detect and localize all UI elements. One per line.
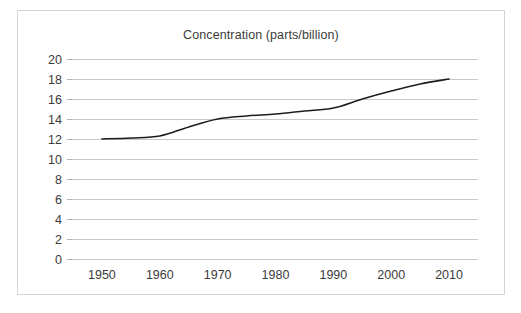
line-chart-plot: 20181614121086420 1950196019701980199020… [18,11,504,294]
y-axis-tick-label: 14 [48,113,62,127]
x-axis-tick-label: 2000 [377,268,405,282]
data-series-line-concentration [102,79,449,139]
y-axis-tick-label: 20 [48,53,62,67]
y-axis-tick-label: 18 [48,73,62,87]
y-axis-tick-label: 10 [48,153,62,167]
y-axis-tick-label: 0 [55,253,62,267]
y-axis-tick-label: 12 [48,133,62,147]
x-axis-tick-label: 1960 [146,268,174,282]
y-axis-labels: 20181614121086420 [48,53,62,267]
x-axis-tick-label: 1950 [88,268,116,282]
y-axis-tick-label: 16 [48,93,62,107]
x-axis-tick-label: 1970 [204,268,232,282]
y-axis-tick-label: 4 [55,213,62,227]
x-axis-tick-label: 1980 [262,268,290,282]
x-axis-labels: 1950196019701980199020002010 [88,268,463,282]
y-axis-tick-marks [67,60,73,260]
y-axis-tick-label: 8 [55,173,62,187]
y-axis-tick-label: 6 [55,193,62,207]
x-axis-tick-label: 1990 [319,268,347,282]
gridlines-group [73,60,478,260]
y-axis-tick-label: 2 [55,233,62,247]
chart-frame: Concentration (parts/billion) 2018161412… [17,10,505,295]
x-axis-tick-label: 2010 [435,268,463,282]
